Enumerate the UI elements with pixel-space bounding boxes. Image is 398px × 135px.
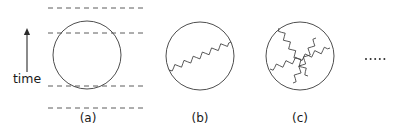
time-axis-label: time bbox=[13, 71, 42, 86]
panel-label-c: (c) bbox=[292, 111, 308, 125]
loop-circle-b bbox=[166, 22, 234, 90]
feynman-diagram-svg: time (a)(b)(c) bbox=[0, 0, 398, 135]
time-axis-arrowhead bbox=[24, 28, 30, 35]
figure-container: time (a)(b)(c) bbox=[0, 0, 398, 135]
ellipsis-dot-1 bbox=[365, 58, 367, 60]
ellipsis-dot-4 bbox=[379, 58, 381, 60]
text-labels: time (a)(b)(c) bbox=[13, 71, 308, 125]
panel-label-a: (a) bbox=[80, 111, 97, 125]
panel-label-b: (b) bbox=[192, 111, 209, 125]
time-axis bbox=[24, 28, 30, 72]
photon-propagator-b-1 bbox=[169, 42, 231, 71]
panel-c bbox=[266, 22, 334, 90]
ellipsis-dots bbox=[365, 58, 385, 60]
time-slice-dashed-lines bbox=[48, 8, 143, 108]
ellipsis-dot-2 bbox=[370, 58, 372, 60]
photon-propagator-c-1 bbox=[278, 28, 308, 76]
diagram-panels bbox=[53, 21, 334, 90]
photon-propagator-c-3 bbox=[293, 38, 316, 83]
ellipsis-dot-3 bbox=[374, 58, 376, 60]
loop-circle-c bbox=[266, 22, 334, 90]
ellipsis-dot-5 bbox=[383, 58, 385, 60]
panel-a bbox=[53, 21, 121, 89]
panel-b bbox=[166, 22, 234, 90]
loop-circle-a bbox=[53, 21, 121, 89]
